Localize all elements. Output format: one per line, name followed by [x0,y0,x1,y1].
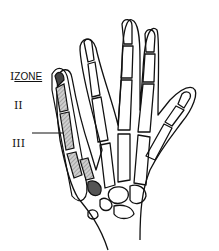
zone-1-label: IZONE [10,71,42,82]
hand-skeleton-diagram [0,0,219,251]
zone-2-label: II [14,100,23,111]
zone-3-label: III [12,138,25,149]
zone-word: ZONE [14,71,42,82]
